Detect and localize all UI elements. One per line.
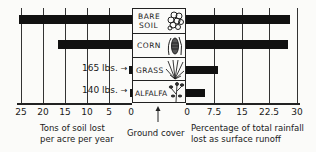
right-axis-line: [186, 103, 300, 105]
bar-runoff-bare: [186, 15, 290, 24]
left-tick: 25: [15, 107, 26, 117]
cover-row-bare-soil: BARE SOIL: [133, 9, 185, 34]
cover-row-grass: GRASS: [133, 58, 185, 81]
label-grass: GRASS: [136, 66, 164, 75]
label-soil: SOIL: [139, 21, 158, 30]
label-bare: BARE: [138, 12, 160, 21]
center-caption: Ground cover: [127, 128, 185, 139]
bar-soil-corn: [58, 40, 132, 49]
bar-runoff-grass: [186, 66, 218, 74]
right-axis-caption: Percentage of total rainfall lost as sur…: [191, 123, 304, 145]
ground-cover-box: BARE SOIL CORN GRASS: [132, 8, 186, 103]
label-corn: CORN: [137, 41, 161, 50]
left-axis-caption: Tons of soil lost per acre per year: [40, 123, 114, 145]
left-axis-line: [17, 103, 132, 105]
bar-runoff-alfalfa: [186, 89, 205, 97]
bar-soil-bare: [19, 15, 132, 24]
right-tick: 0: [184, 107, 190, 117]
grass-icon: [165, 59, 185, 80]
bar-runoff-corn: [186, 40, 288, 49]
cover-row-corn: CORN: [133, 34, 185, 58]
right-tick: 30: [291, 107, 302, 117]
right-tick: 15: [236, 107, 247, 117]
left-tick: 10: [81, 107, 92, 117]
left-tick: 5: [106, 107, 112, 117]
alfalfa-icon: [168, 82, 185, 103]
grass-loss-label: 165 lbs. →: [82, 63, 127, 73]
left-tick: 0: [128, 107, 134, 117]
cover-row-alfalfa: ALFALFA: [133, 81, 185, 104]
right-tick: 7.5: [207, 107, 221, 117]
alfalfa-loss-label: 140 lbs. →: [82, 85, 127, 95]
left-tick: 15: [59, 107, 70, 117]
gridline: [297, 8, 298, 103]
corn-icon: [165, 35, 185, 57]
arrow-up-icon: [155, 106, 161, 122]
label-alfalfa: ALFALFA: [135, 89, 167, 98]
right-tick: 22.5: [259, 107, 279, 117]
soil-clods-icon: [165, 11, 185, 32]
left-tick: 20: [37, 107, 48, 117]
